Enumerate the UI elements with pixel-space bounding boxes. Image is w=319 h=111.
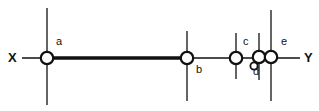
diagram-svg [0, 0, 319, 111]
point-circle-d[interactable] [253, 51, 265, 63]
point-label-d: d [253, 66, 259, 77]
point-circle-c[interactable] [230, 52, 242, 64]
point-circle-e[interactable] [265, 51, 277, 63]
point-label-e: e [281, 36, 287, 47]
diagram-canvas: X Y a b c d e [0, 0, 319, 111]
axis-label-y: Y [304, 51, 313, 64]
point-label-c: c [243, 36, 249, 47]
point-label-a: a [56, 36, 62, 47]
point-label-b: b [196, 64, 202, 75]
axis-label-x: X [8, 51, 17, 64]
point-circle-b[interactable] [181, 52, 193, 64]
point-circle-a[interactable] [41, 52, 53, 64]
diagram-geometry [22, 8, 300, 105]
